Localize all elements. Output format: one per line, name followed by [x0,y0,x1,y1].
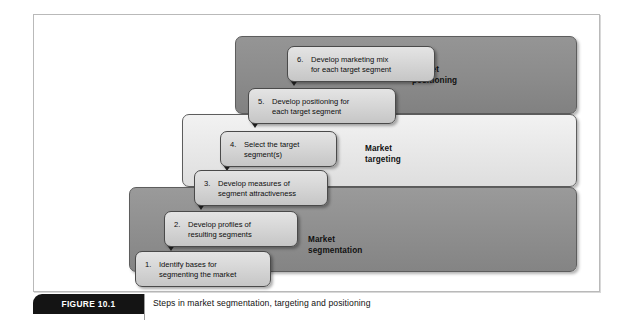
step-box-6-content: 6. Develop marketing mix for each target… [297,55,429,76]
step-box-5-number: 5. [258,97,267,118]
figure-caption-row: FIGURE 10.1 Steps in market segmentation… [33,294,600,318]
step-box-3-text: Develop measures of segment attractivene… [218,179,322,200]
figure-number-tab: FIGURE 10.1 [33,294,144,314]
step-box-4-number: 4. [230,140,239,161]
step-box-5[interactable]: 5. Develop positioning for each target s… [248,88,396,124]
step-box-6[interactable]: 6. Develop marketing mix for each target… [287,46,435,82]
step-box-6-text: Develop marketing mix for each target se… [311,55,429,76]
step-box-5-text: Develop positioning for each target segm… [272,97,390,118]
step-box-2-number: 2. [174,220,183,241]
step-box-2-text: Develop profiles of resulting segments [188,220,292,241]
step-box-4[interactable]: 4. Select the target segment(s) [220,131,337,167]
step-box-4-content: 4. Select the target segment(s) [230,140,331,161]
band-label-market-targeting: Market targeting [365,143,401,165]
step-box-5-content: 5. Develop positioning for each target s… [258,97,390,118]
band-label-market-segmentation: Market segmentation [308,234,362,256]
step-box-1-content: 1. Identify bases for segmenting the mar… [145,260,265,281]
step-box-3-number: 3. [204,179,213,200]
step-box-1-text: Identify bases for segmenting the market [159,260,265,281]
step-box-3-content: 3. Develop measures of segment attractiv… [204,179,322,200]
staircase-diagram: Market positioning Market targeting Mark… [34,15,601,293]
figure-frame: Market positioning Market targeting Mark… [33,14,600,292]
step-box-2-content: 2. Develop profiles of resulting segment… [174,220,292,241]
caption-divider [144,294,145,320]
step-box-3[interactable]: 3. Develop measures of segment attractiv… [194,170,328,206]
figure-number-label: FIGURE 10.1 [61,299,115,309]
step-box-6-number: 6. [297,55,306,76]
figure-page: Market positioning Market targeting Mark… [0,0,626,323]
step-box-1[interactable]: 1. Identify bases for segmenting the mar… [135,251,271,287]
step-box-1-number: 1. [145,260,154,281]
step-box-2[interactable]: 2. Develop profiles of resulting segment… [164,211,298,247]
figure-caption-text: Steps in market segmentation, targeting … [153,298,371,308]
step-box-4-text: Select the target segment(s) [244,140,331,161]
